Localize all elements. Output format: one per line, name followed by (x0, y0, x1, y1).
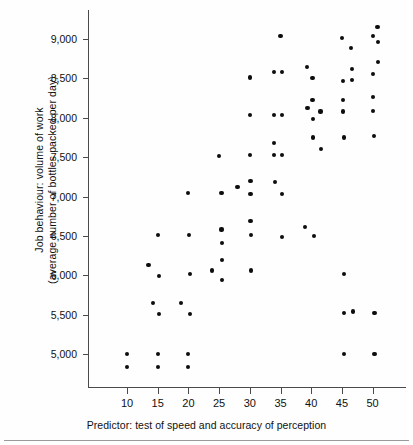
data-point (248, 75, 252, 79)
footer-rule (4, 440, 409, 441)
data-point (340, 36, 344, 40)
data-point (156, 233, 160, 237)
data-point (273, 180, 277, 184)
data-point (349, 46, 353, 50)
data-point (157, 312, 161, 316)
data-point (187, 233, 191, 237)
data-point (341, 109, 345, 113)
data-point (220, 241, 224, 245)
y-tick-mark (83, 78, 89, 79)
x-tick-label: 20 (173, 398, 203, 409)
y-tick-mark (83, 157, 89, 158)
x-tick-label: 30 (235, 398, 265, 409)
data-point (350, 78, 354, 82)
data-point (375, 25, 379, 29)
data-point (235, 185, 239, 189)
data-point (350, 67, 354, 71)
y-tick-label: 9,000 (33, 34, 77, 45)
data-point (303, 225, 307, 229)
y-tick-label: 5,500 (33, 310, 77, 321)
y-tick-mark (83, 39, 89, 40)
data-point (186, 365, 190, 369)
data-point (219, 191, 223, 195)
data-point (371, 95, 375, 99)
y-tick-mark (83, 315, 89, 316)
data-point (280, 235, 284, 239)
data-point (151, 301, 155, 305)
data-point (376, 40, 380, 44)
x-tick-mark (188, 388, 189, 394)
x-tick-label: 35 (266, 398, 296, 409)
data-point (125, 365, 129, 369)
y-tick-label: 8,500 (33, 73, 77, 84)
data-point (220, 278, 224, 282)
data-point (305, 106, 309, 110)
y-tick-mark (83, 354, 89, 355)
data-point (318, 109, 322, 113)
x-axis-title: Predictor: test of speed and accuracy of… (0, 419, 413, 431)
data-point (280, 192, 284, 196)
y-tick-mark (83, 275, 89, 276)
data-point (186, 191, 190, 195)
x-tick-mark (158, 388, 159, 394)
data-point (146, 263, 150, 267)
data-point (310, 76, 314, 80)
data-point (188, 312, 192, 316)
data-point (371, 34, 375, 38)
x-tick-label: 25 (204, 398, 234, 409)
data-point (219, 227, 223, 231)
data-point (157, 274, 161, 278)
data-point (372, 311, 376, 315)
x-tick-label: 50 (358, 398, 388, 409)
y-tick-label: 8,000 (33, 113, 77, 124)
data-point (248, 153, 252, 157)
plot-area: 5,0005,5006,0006,5007,0007,5008,0008,500… (0, 0, 413, 445)
data-point (280, 70, 284, 74)
x-tick-label: 15 (143, 398, 173, 409)
x-tick-mark (127, 388, 128, 394)
x-tick-mark (250, 388, 251, 394)
data-point (376, 60, 380, 64)
data-point (351, 309, 355, 313)
data-point (272, 113, 276, 117)
data-point (156, 352, 160, 356)
data-point (341, 79, 345, 83)
data-point (372, 134, 376, 138)
y-tick-label: 5,000 (33, 349, 77, 360)
y-tick-mark (83, 118, 89, 119)
y-tick-label: 6,500 (33, 231, 77, 242)
data-point (280, 153, 284, 157)
data-point (272, 153, 276, 157)
x-tick-label: 40 (296, 398, 326, 409)
x-tick-label: 45 (327, 398, 357, 409)
data-point (305, 65, 309, 69)
data-point (278, 34, 282, 38)
data-point (249, 268, 253, 272)
data-point (220, 258, 224, 262)
scatter-plot-figure: Job behaviour: volume of work (average n… (0, 0, 413, 445)
data-point (342, 135, 346, 139)
data-point (342, 272, 346, 276)
data-point (342, 352, 346, 356)
data-point (319, 147, 323, 151)
data-point (311, 135, 315, 139)
data-point (310, 98, 314, 102)
x-tick-mark (281, 388, 282, 394)
data-point (248, 219, 252, 223)
y-tick-mark (83, 197, 89, 198)
data-point (210, 268, 214, 272)
y-tick-label: 7,000 (33, 192, 77, 203)
data-point (186, 352, 190, 356)
x-tick-mark (342, 388, 343, 394)
y-tick-mark (83, 236, 89, 237)
data-point (342, 311, 346, 315)
data-point (341, 98, 345, 102)
x-tick-mark (373, 388, 374, 394)
data-point (311, 117, 315, 121)
x-tick-mark (219, 388, 220, 394)
data-point (248, 192, 252, 196)
data-point (249, 233, 253, 237)
data-point (371, 109, 375, 113)
data-point (217, 154, 221, 158)
x-tick-mark (311, 388, 312, 394)
